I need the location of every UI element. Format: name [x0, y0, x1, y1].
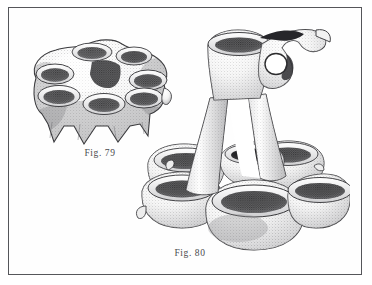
- fig79-cup-front-left: [38, 86, 80, 107]
- figure-plate: Fig. 79: [0, 0, 372, 285]
- fig79-cup-back: [72, 43, 112, 61]
- fig80-bowl-front-right: [288, 174, 350, 228]
- fig79-cup-front-center: [83, 94, 125, 115]
- fig79-cup-left: [36, 64, 74, 84]
- fig80-ring-handle: [259, 30, 331, 89]
- figure-80-caption: Fig. 80: [140, 248, 240, 258]
- figure-80: [128, 20, 350, 270]
- pottery-vessel-handle-icon: [128, 20, 350, 252]
